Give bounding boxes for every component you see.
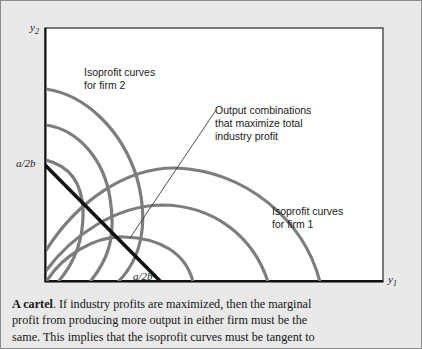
y-axis-label-subscript: 2	[35, 27, 39, 36]
chart-canvas	[0, 0, 422, 292]
figure-page: y2 y1 a/2b a/2b Isoprofit curves for fir…	[0, 0, 422, 349]
x-axis-label-subscript: 1	[393, 279, 397, 288]
cartel-isoprofit-diagram: y2 y1 a/2b a/2b Isoprofit curves for fir…	[0, 0, 422, 292]
caption-line-1-text: . If industry profits are maximized, the…	[53, 297, 311, 311]
caption-line-2: profit from producing more output in eit…	[12, 312, 410, 328]
caption-line-1: A cartel. If industry profits are maximi…	[12, 296, 410, 312]
annotation-isoprofit-firm1: Isoprofit curves for firm 1	[272, 205, 343, 231]
y-axis-label: y2	[30, 22, 39, 36]
caption-line-3: same. This implies that the isoprofit cu…	[12, 329, 410, 345]
x-axis-tick-label: a/2b	[133, 271, 153, 282]
y-axis-tick-label: a/2b	[16, 158, 36, 169]
annotation-isoprofit-firm2: Isoprofit curves for firm 2	[84, 66, 155, 92]
figure-caption: A cartel. If industry profits are maximi…	[0, 292, 422, 349]
x-axis-label: y1	[388, 274, 397, 288]
annotation-output-combinations: Output combinations that maximize total …	[215, 104, 311, 143]
caption-title: A cartel	[12, 297, 53, 311]
